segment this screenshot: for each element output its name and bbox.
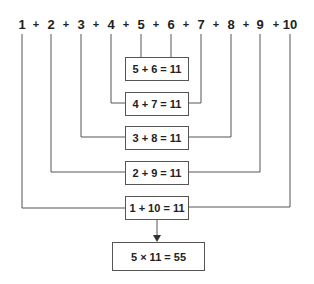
- arrow-down-icon: [153, 235, 161, 242]
- number-2: 2: [47, 17, 54, 32]
- number-3: 3: [77, 17, 84, 32]
- number-6: 6: [167, 17, 174, 32]
- number-10: 10: [283, 17, 297, 32]
- number-7: 7: [197, 17, 204, 32]
- pair-box-5-6: 5 + 6 = 11: [125, 57, 189, 81]
- number-5: 5: [137, 17, 144, 32]
- number-1: 1: [18, 17, 25, 32]
- plus-sign: +: [33, 18, 39, 30]
- plus-sign: +: [243, 18, 249, 30]
- pair-box-4-7: 4 + 7 = 11: [125, 92, 189, 116]
- pair-box-1-10: 1 + 10 = 11: [125, 196, 189, 220]
- plus-sign: +: [273, 18, 279, 30]
- plus-sign: +: [63, 18, 69, 30]
- plus-sign: +: [153, 18, 159, 30]
- plus-sign: +: [213, 18, 219, 30]
- result-box: 5 × 11 = 55: [112, 242, 205, 271]
- plus-sign: +: [123, 18, 129, 30]
- pair-box-2-9: 2 + 9 = 11: [125, 161, 189, 185]
- plus-sign: +: [183, 18, 189, 30]
- number-4: 4: [107, 17, 114, 32]
- number-8: 8: [227, 17, 234, 32]
- pair-box-3-8: 3 + 8 = 11: [125, 126, 189, 150]
- number-9: 9: [256, 17, 263, 32]
- plus-sign: +: [93, 18, 99, 30]
